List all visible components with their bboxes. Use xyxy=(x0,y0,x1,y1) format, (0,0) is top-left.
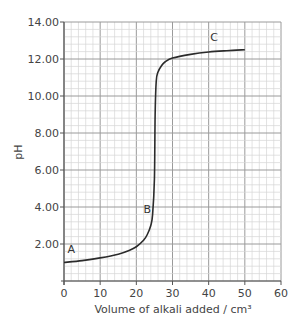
y-tick-labels: 2.004.006.008.0010.0012.0014.00 xyxy=(28,16,65,251)
point-label-a: A xyxy=(67,243,75,256)
y-axis-label: pH xyxy=(12,144,25,159)
x-tick-label: 50 xyxy=(238,287,252,300)
y-tick-label: 8.00 xyxy=(35,127,60,140)
axes xyxy=(61,22,281,285)
x-tick-label: 20 xyxy=(129,287,143,300)
x-tick-labels: 0102030405060 xyxy=(61,281,289,300)
point-label-c: C xyxy=(210,31,218,44)
x-axis-label: Volume of alkali added / cm³ xyxy=(94,303,251,316)
y-tick-label: 14.00 xyxy=(28,16,60,29)
y-tick-label: 12.00 xyxy=(28,53,60,66)
x-tick-label: 60 xyxy=(274,287,288,300)
point-label-b: B xyxy=(143,203,151,216)
grid xyxy=(64,22,281,281)
x-tick-label: 40 xyxy=(202,287,216,300)
point-labels: ABC xyxy=(67,31,218,257)
titration-curve xyxy=(64,50,245,263)
y-tick-label: 2.00 xyxy=(35,238,60,251)
y-tick-label: 6.00 xyxy=(35,164,60,177)
y-tick-label: 10.00 xyxy=(28,90,60,103)
titration-chart: 2.004.006.008.0010.0012.0014.00 01020304… xyxy=(0,0,303,333)
y-tick-label: 4.00 xyxy=(35,201,60,214)
x-tick-label: 0 xyxy=(61,287,68,300)
x-tick-label: 10 xyxy=(93,287,107,300)
x-tick-label: 30 xyxy=(166,287,180,300)
